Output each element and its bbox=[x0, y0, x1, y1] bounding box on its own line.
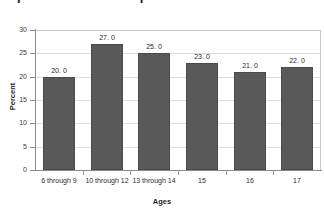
bar-value-label: 27. 0 bbox=[82, 34, 132, 42]
x-tick-mark bbox=[83, 171, 84, 175]
y-tick-label: 25 bbox=[0, 49, 27, 56]
x-tick-mark bbox=[273, 171, 274, 175]
bar-chart: important other social problems at schoo… bbox=[0, 0, 324, 215]
bar bbox=[234, 72, 266, 170]
y-axis-label: Percent bbox=[8, 67, 17, 127]
chart-title-text: important other social problems at schoo… bbox=[2, 0, 257, 3]
y-tick-label: 5 bbox=[0, 143, 27, 150]
bar bbox=[281, 67, 313, 170]
plot-frame bbox=[35, 30, 321, 170]
y-tick-mark bbox=[30, 100, 35, 101]
y-tick-mark bbox=[30, 170, 35, 171]
y-tick-label: 30 bbox=[0, 26, 27, 33]
x-tick-mark bbox=[226, 171, 227, 175]
y-tick-mark bbox=[30, 123, 35, 124]
x-tick-mark bbox=[130, 171, 131, 175]
x-tick-label: 15 bbox=[178, 177, 226, 185]
bar bbox=[43, 77, 75, 170]
y-tick-mark bbox=[30, 77, 35, 78]
bar bbox=[138, 53, 170, 170]
bar bbox=[91, 44, 123, 170]
bar bbox=[186, 63, 218, 170]
bar-value-label: 21. 0 bbox=[225, 62, 275, 70]
x-tick-label: 6 through 9 bbox=[35, 177, 83, 185]
x-tick-label: 17 bbox=[273, 177, 321, 185]
bar-value-label: 25. 0 bbox=[129, 43, 179, 51]
x-axis-label: Ages bbox=[0, 197, 324, 206]
x-tick-label: 10 through 12 bbox=[83, 177, 131, 185]
chart-title-cropped: important other social problems at schoo… bbox=[0, 0, 324, 5]
bar-value-label: 23. 0 bbox=[177, 53, 227, 61]
y-tick-mark bbox=[30, 53, 35, 54]
y-tick-label: 0 bbox=[0, 166, 27, 173]
x-tick-label: 16 bbox=[226, 177, 274, 185]
x-tick-label: 13 through 14 bbox=[130, 177, 178, 185]
y-tick-mark bbox=[30, 30, 35, 31]
bar-value-label: 20. 0 bbox=[34, 67, 84, 75]
x-tick-mark bbox=[178, 171, 179, 175]
y-tick-mark bbox=[30, 147, 35, 148]
y-axis-line bbox=[35, 29, 36, 171]
bar-value-label: 22. 0 bbox=[272, 57, 322, 65]
